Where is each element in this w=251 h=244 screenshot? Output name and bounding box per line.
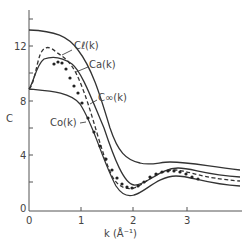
- curve-c-o: [29, 89, 240, 196]
- y-tick-8: 8: [20, 96, 26, 107]
- label-c-l: Cℓ(k): [74, 40, 99, 51]
- label-c-o: Co(k): [50, 117, 77, 128]
- x-tick-2: 2: [130, 215, 136, 226]
- x-axis-label: k (Å⁻¹): [104, 227, 137, 239]
- y-tick-0: 0: [20, 203, 26, 214]
- chart: 12 8 4 0 0 1 2 3 C k (Å⁻¹): [0, 0, 251, 244]
- y-ticks: [29, 19, 33, 182]
- y-tick-12: 12: [14, 41, 27, 52]
- leader-c-o: [80, 122, 86, 123]
- x-tick-1: 1: [78, 215, 84, 226]
- y-tick-4: 4: [20, 150, 26, 161]
- x-ticks: [81, 207, 187, 211]
- x-tick-3: 3: [184, 215, 190, 226]
- label-c-a: Ca(k): [89, 59, 116, 70]
- label-c-inf: C∞(k): [98, 92, 127, 103]
- y-axis-label: C: [6, 113, 13, 124]
- x-tick-0: 0: [26, 215, 32, 226]
- curve-c-l: [29, 30, 240, 170]
- leader-c-a: [76, 67, 88, 72]
- leader-c-l: [62, 50, 72, 55]
